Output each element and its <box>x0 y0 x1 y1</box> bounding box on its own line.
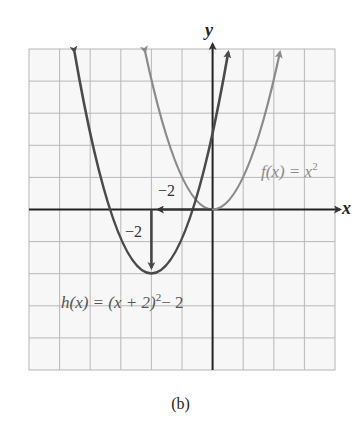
horizontal-shift-label: −2 <box>158 182 175 200</box>
f-label-rest: (x) = x <box>266 162 312 181</box>
vertical-shift-label: −2 <box>125 223 142 241</box>
h-label-rest: (x) = (x + 2) <box>70 293 156 312</box>
graph <box>0 0 361 422</box>
h-label-tail: − 2 <box>161 293 183 312</box>
f-label-exponent: 2 <box>312 160 318 172</box>
h-label: h(x) = (x + 2)2− 2 <box>61 291 184 313</box>
y-axis-label: y <box>205 20 213 41</box>
figure-caption: (b) <box>0 395 361 413</box>
f-label: f(x) = x2 <box>261 160 318 182</box>
x-axis-label: x <box>342 198 351 219</box>
h-label-name: h <box>61 293 70 312</box>
